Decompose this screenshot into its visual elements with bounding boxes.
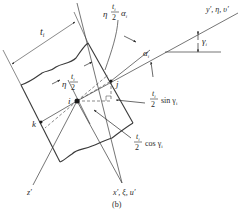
node-i bbox=[75, 99, 80, 104]
width-label: ti bbox=[40, 26, 45, 38]
block-bottom-wavy-edge bbox=[60, 123, 133, 162]
eta-half-arrow-left bbox=[52, 80, 60, 84]
block-top-wavy-edge bbox=[21, 43, 88, 85]
cos-leader bbox=[94, 110, 131, 138]
eta-half-alpha-label: η ti 2 αi bbox=[103, 2, 128, 22]
block-left-edge bbox=[21, 85, 60, 162]
svg-text:sin γi: sin γi bbox=[161, 96, 178, 106]
eta-half-label: η ti 2 bbox=[62, 72, 78, 92]
right-angle-marker bbox=[106, 96, 111, 101]
z-axis-label: z′ bbox=[26, 188, 32, 197]
svg-text:ti: ti bbox=[112, 2, 116, 12]
x-prime-axis bbox=[77, 3, 122, 183]
svg-text:2: 2 bbox=[151, 100, 155, 109]
x-axis-label: x′, ξ, u′ bbox=[112, 188, 136, 197]
element-geometry-diagram: ti i j k η ti bbox=[0, 0, 241, 210]
dashed-i-to-k bbox=[45, 101, 77, 128]
dashed-i-to-upper bbox=[77, 75, 108, 101]
x-prime-axis-lower bbox=[77, 101, 122, 183]
gamma-label: γi bbox=[202, 36, 208, 47]
svg-text:2: 2 bbox=[71, 83, 75, 92]
y-prime-axis bbox=[77, 13, 238, 101]
half-sin-label: ti 2 sin γi bbox=[150, 89, 178, 109]
svg-text:ti: ti bbox=[136, 132, 140, 142]
svg-text:2: 2 bbox=[112, 13, 116, 22]
alpha-arc bbox=[105, 20, 118, 70]
svg-text:ti: ti bbox=[152, 89, 156, 99]
svg-text:ti: ti bbox=[71, 72, 75, 82]
eta-half-arrow bbox=[84, 62, 92, 66]
node-j bbox=[110, 80, 113, 83]
eta-half-alpha-arrow bbox=[124, 36, 136, 42]
svg-text:2: 2 bbox=[135, 143, 139, 152]
svg-text:αi: αi bbox=[121, 8, 128, 19]
svg-text:η: η bbox=[62, 79, 67, 89]
alpha-label: αi bbox=[143, 48, 150, 59]
label-j: j bbox=[115, 79, 119, 89]
node-k bbox=[40, 121, 43, 124]
width-dimension bbox=[3, 12, 88, 85]
svg-text:η: η bbox=[103, 9, 108, 19]
label-k: k bbox=[32, 119, 37, 129]
figure-caption: (b) bbox=[112, 200, 122, 209]
svg-text:cos γi: cos γi bbox=[145, 139, 163, 149]
half-cos-label: ti 2 cos γi bbox=[134, 132, 163, 152]
y-axis-label: y′, η, υ′ bbox=[205, 5, 229, 14]
alpha-arrow bbox=[151, 62, 153, 77]
